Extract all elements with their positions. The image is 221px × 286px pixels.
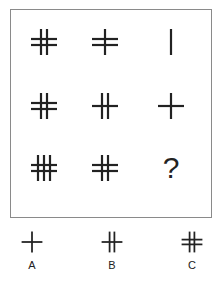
puzzle-frame: ? bbox=[10, 9, 212, 218]
cross-2v1h-icon bbox=[92, 226, 132, 258]
option-label: B bbox=[92, 259, 132, 271]
grid-cell-r1c2 bbox=[85, 22, 125, 62]
hash-2v2h-icon bbox=[85, 148, 125, 188]
grid-cell-r2c2 bbox=[85, 86, 125, 126]
grid-cell-r1c3 bbox=[151, 22, 191, 62]
question-mark: ? bbox=[151, 148, 191, 188]
option-b[interactable]: B bbox=[92, 226, 132, 271]
cross-1v2h-icon bbox=[85, 22, 125, 62]
plus-icon bbox=[12, 226, 52, 258]
grid-cell-r3c2 bbox=[85, 148, 125, 188]
option-label: A bbox=[12, 259, 52, 271]
cross-2v1h-icon bbox=[85, 86, 125, 126]
option-a[interactable]: A bbox=[12, 226, 52, 271]
grid-cell-r2c3 bbox=[151, 86, 191, 126]
plus-icon bbox=[151, 86, 191, 126]
grid-cell-r1c1 bbox=[24, 22, 64, 62]
option-c[interactable]: C bbox=[172, 226, 212, 271]
hash-2v2h-icon bbox=[172, 226, 212, 258]
grid-cell-r2c1 bbox=[24, 86, 64, 126]
hash-3v2h-icon bbox=[24, 148, 64, 188]
option-label: C bbox=[172, 259, 212, 271]
hash-2v2h-icon bbox=[24, 86, 64, 126]
grid-cell-r3c1 bbox=[24, 148, 64, 188]
hash-2v2h-icon bbox=[24, 22, 64, 62]
vertical-line-icon bbox=[151, 22, 191, 62]
